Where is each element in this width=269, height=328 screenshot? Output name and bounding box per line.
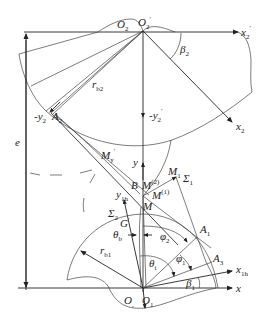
label-y: y	[132, 156, 138, 168]
label-theta-i: θi	[149, 257, 156, 272]
label-neg-y2: -y2	[34, 110, 47, 125]
label-A3: A3	[212, 252, 224, 267]
label-beta1: β1	[185, 277, 195, 292]
label-y1h: y1h	[115, 188, 128, 203]
label-phi1: φ1	[176, 252, 186, 267]
label-A2: A2	[51, 110, 63, 125]
label-My-prime: My′	[100, 147, 116, 164]
label-Sigma1: Σ1	[182, 172, 194, 187]
label-O1: O1	[142, 294, 154, 309]
sigma1-line-down	[176, 177, 206, 262]
dashed-fragments	[30, 170, 95, 212]
label-theta-b: θb	[113, 228, 122, 243]
label-rb1: rb1	[100, 244, 112, 259]
beta1-arc	[198, 277, 200, 288]
gear-2-group	[19, 19, 252, 146]
label-M1-star: M(1)	[151, 188, 170, 201]
label-beta2: β2	[179, 43, 189, 58]
label-neg-y2-prime: -y2′	[149, 107, 163, 124]
label-O2: O2	[117, 18, 129, 33]
gear-1-group	[18, 196, 232, 308]
label-phi2: φ2	[160, 230, 170, 245]
radial-line-4	[53, 31, 143, 114]
labels: O2 O2′ x2′ β2 rb2 -y2 A2 -y2′ x2 e My′ y…	[15, 15, 251, 309]
radial-line-2	[46, 31, 143, 111]
label-A1: A1	[199, 223, 211, 238]
label-x2-prime: x2′	[240, 24, 251, 41]
label-e: e	[15, 136, 20, 148]
label-x1h: x1h	[235, 263, 248, 278]
gear-geometry-diagram: O2 O2′ x2′ β2 rb2 -y2 A2 -y2′ x2 e My′ y…	[0, 0, 269, 328]
gear2-left-arc	[19, 54, 46, 111]
radial-line-1	[31, 31, 143, 86]
label-O2-prime: O2′	[138, 15, 151, 31]
label-B: B	[131, 179, 138, 191]
label-x: x	[235, 282, 241, 294]
label-rb2: rb2	[92, 78, 104, 93]
label-G-prime: G′	[120, 216, 130, 229]
gear2-right-edge	[238, 32, 252, 92]
label-M: M	[142, 200, 153, 212]
rb1-arrow	[81, 251, 143, 288]
label-x2: x2	[235, 120, 245, 135]
gear2-top-left-edge	[19, 32, 98, 54]
